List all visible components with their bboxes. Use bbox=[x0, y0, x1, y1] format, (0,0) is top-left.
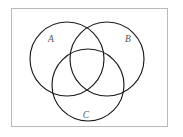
set-label-b: B bbox=[125, 34, 131, 44]
venn-diagram-canvas: A B C bbox=[0, 0, 183, 137]
venn-diagram-figure: A B C bbox=[0, 0, 183, 137]
set-label-a: A bbox=[47, 34, 54, 44]
set-label-c: C bbox=[83, 110, 90, 120]
